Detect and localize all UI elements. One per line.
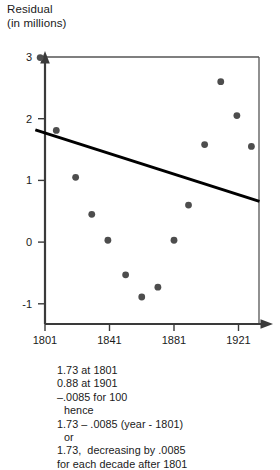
data-point xyxy=(217,78,224,85)
y-tick-label: 3 xyxy=(8,52,32,63)
annotation-block: 1.73 at 1801 0.88 at 1901 –.0085 for 100… xyxy=(57,364,272,470)
annotation-line-7: 1.73, decreasing by .0085 xyxy=(57,444,272,457)
data-point xyxy=(122,271,129,278)
annotation-line-1: 1.73 at 1801 xyxy=(57,364,272,377)
residual-plot-figure: Residual (in millions) 3210-1 1801184 xyxy=(0,0,280,470)
y-tick-label: -1 xyxy=(8,299,32,310)
data-point xyxy=(88,211,95,218)
trend-line xyxy=(35,130,259,202)
data-point xyxy=(154,284,161,291)
data-point xyxy=(248,143,255,150)
annotation-line-5: 1.73 – .0085 (year - 1801) xyxy=(57,418,272,431)
chart-canvas xyxy=(0,34,280,344)
data-points xyxy=(37,54,255,300)
y-axis-title-line1: Residual xyxy=(7,3,53,15)
data-point xyxy=(201,141,208,148)
y-axis-title: Residual (in millions) xyxy=(7,3,66,30)
annotation-line-4: hence xyxy=(57,404,272,417)
x-tick-label: 1881 xyxy=(152,335,196,346)
annotation-line-6: or xyxy=(57,431,272,444)
x-tick-label: 1921 xyxy=(217,335,261,346)
x-tick-label: 1801 xyxy=(23,335,67,346)
x-tick-label: 1841 xyxy=(88,335,132,346)
data-point xyxy=(171,237,178,244)
data-point xyxy=(72,174,79,181)
annotation-line-3: –.0085 for 100 xyxy=(57,391,272,404)
scatter-plot: 3210-1 1801184118811921 xyxy=(0,34,280,344)
data-point xyxy=(185,202,192,209)
regression-line xyxy=(35,130,259,202)
data-point xyxy=(53,127,60,134)
y-tick-label: 2 xyxy=(8,114,32,125)
y-axis-title-line2: (in millions) xyxy=(7,17,66,31)
y-tick-label: 0 xyxy=(8,237,32,248)
annotation-line-8: for each decade after 1801 xyxy=(57,458,272,470)
data-point xyxy=(104,237,111,244)
y-axis-line xyxy=(40,51,50,324)
annotation-line-2: 0.88 at 1901 xyxy=(57,377,272,390)
data-point xyxy=(138,294,145,301)
y-tick-label: 1 xyxy=(8,175,32,186)
data-point xyxy=(233,112,240,119)
data-point xyxy=(37,54,44,61)
